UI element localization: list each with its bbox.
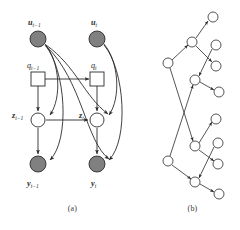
tree-node: [214, 189, 224, 199]
tree-node: [163, 156, 173, 166]
label-y-prev: yt−1: [26, 179, 39, 189]
node-q-prev: [31, 72, 45, 86]
tree-node: [213, 138, 223, 148]
edge-b9-b8: [199, 122, 212, 143]
node-z-cur: [90, 113, 104, 127]
tree-node: [214, 87, 224, 97]
tree-node: [190, 141, 200, 151]
label-y-cur: yt: [90, 179, 97, 189]
panel-b-tree-graph: [145, 0, 240, 230]
edge-b2-b1: [196, 21, 208, 38]
tree-node: [163, 58, 173, 68]
node-u-cur: [89, 31, 105, 47]
node-z-prev: [31, 113, 45, 127]
tree-node: [213, 159, 223, 169]
caption-panel-a: (a): [0, 204, 145, 213]
edge-b12-b6: [170, 85, 193, 156]
edge-b12-b9: [172, 165, 191, 179]
label-z-prev: zt−1: [11, 111, 24, 121]
tree-node: [211, 61, 221, 71]
figure-root: ut−1 ut qt−1 qt zt−1 zt yt−1 yt: [0, 0, 240, 230]
tree-node: [190, 177, 200, 187]
edge-b5-b2: [172, 45, 188, 60]
tree-node: [211, 114, 221, 124]
tree-node: [190, 75, 200, 85]
label-z-cur: zt: [78, 111, 84, 121]
label-u-cur: ut: [91, 18, 98, 28]
edge-b3-b6: [199, 49, 212, 76]
edge-uprev-yprev: [45, 45, 63, 160]
node-u-prev: [30, 31, 46, 47]
edge-b13-b14: [200, 184, 214, 192]
tree-node: [208, 12, 218, 22]
edge-b5-b9: [170, 68, 193, 141]
edge-ucur-ycur: [104, 45, 122, 160]
node-y-prev: [30, 156, 46, 172]
label-u-prev: ut−1: [28, 18, 41, 28]
panel-a-graphical-model: ut−1 ut qt−1 qt zt−1 zt yt−1 yt: [0, 0, 145, 230]
tree-node: [211, 40, 221, 50]
label-q-prev: qt−1: [27, 61, 39, 71]
caption-panel-b: (b): [145, 204, 240, 213]
node-q-cur: [90, 72, 104, 86]
edge-b6-b7: [200, 82, 214, 90]
label-q-cur: qt: [91, 61, 97, 71]
tree-node: [187, 37, 197, 47]
node-y-cur: [89, 156, 105, 172]
